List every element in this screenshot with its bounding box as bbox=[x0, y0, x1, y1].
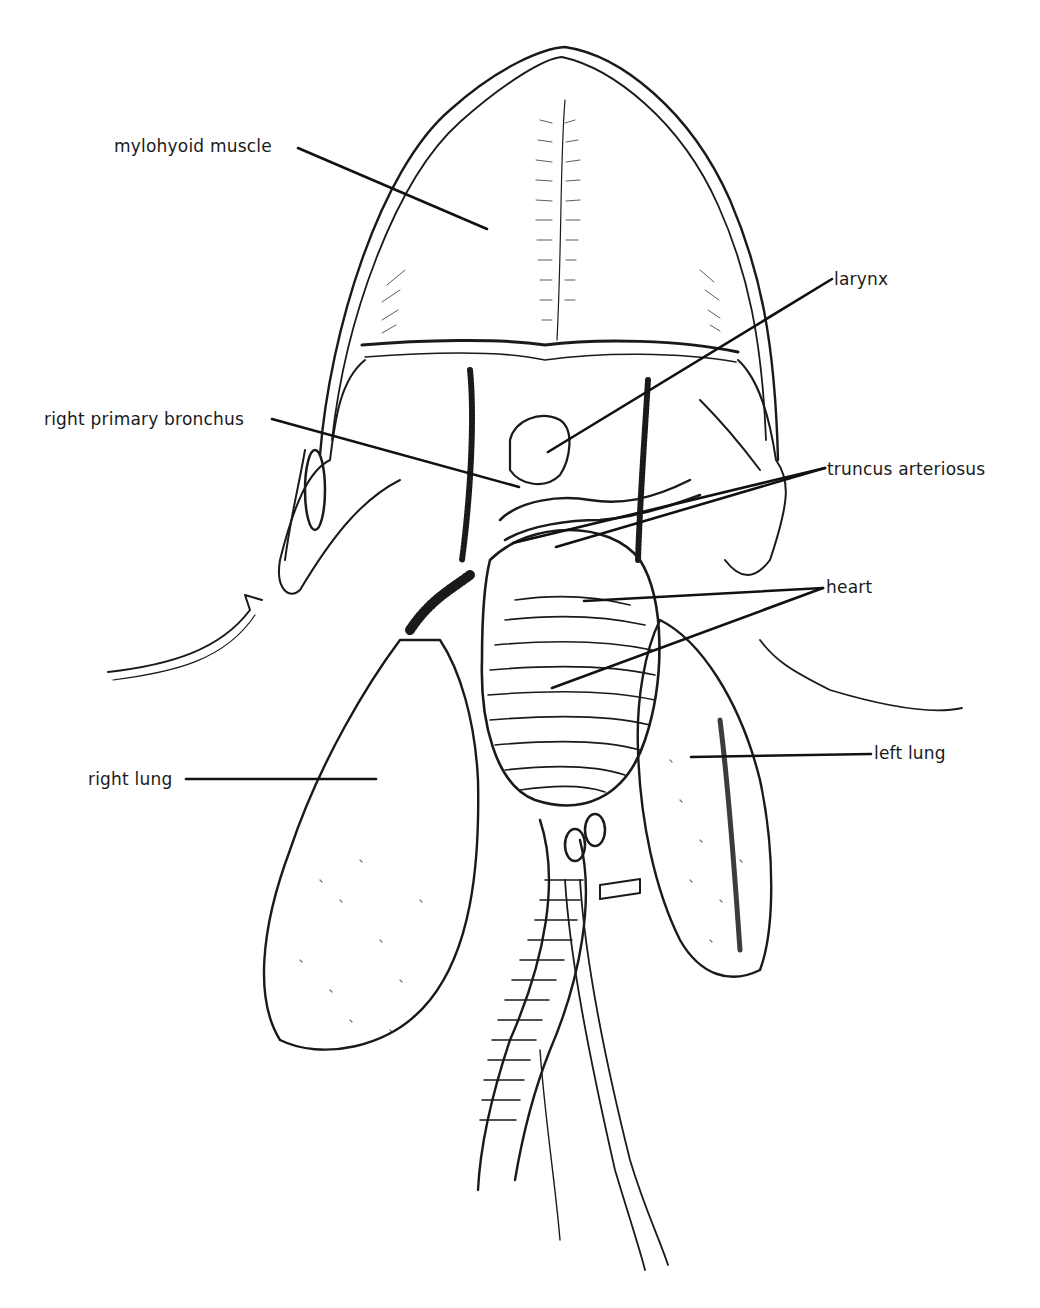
label-right-lung: right lung bbox=[88, 771, 172, 788]
leader-line-left-lung bbox=[691, 754, 871, 757]
anatomy-diagram: mylohyoid muscle larynx right primary br… bbox=[0, 0, 1040, 1308]
left-hyoid-structures bbox=[279, 360, 400, 594]
heart-shape bbox=[482, 530, 660, 805]
jaw-outline-outer bbox=[320, 47, 778, 460]
label-heart: heart bbox=[826, 579, 872, 596]
left-vessel bbox=[462, 370, 472, 560]
leader-lines bbox=[186, 148, 871, 779]
leader-line-bronchus bbox=[272, 419, 519, 487]
right-lung-shape bbox=[264, 640, 478, 1050]
truncus-shape bbox=[500, 480, 690, 520]
dorsal-aorta bbox=[565, 880, 645, 1270]
esophagus bbox=[478, 820, 549, 1190]
leader-line-heart-b bbox=[552, 588, 823, 688]
label-left-lung: left lung bbox=[874, 745, 946, 762]
leader-line-heart-a bbox=[584, 588, 823, 601]
label-truncus-arteriosus: truncus arteriosus bbox=[827, 461, 985, 478]
leader-line-larynx bbox=[548, 279, 832, 452]
jaw-outline-inner bbox=[332, 57, 766, 440]
label-mylohyoid-muscle: mylohyoid muscle bbox=[114, 138, 272, 155]
leader-line-mylohyoid bbox=[298, 148, 487, 229]
right-hyoid-structures bbox=[725, 360, 786, 575]
midline-raphe bbox=[557, 100, 565, 340]
larynx-shape bbox=[510, 416, 569, 484]
anatomical-illustration bbox=[0, 0, 1040, 1308]
label-larynx: larynx bbox=[834, 271, 888, 288]
label-right-primary-bronchus: right primary bronchus bbox=[44, 411, 244, 428]
right-vessel bbox=[638, 380, 648, 560]
right-skin-flap bbox=[760, 640, 962, 710]
mylohyoid-border bbox=[362, 340, 738, 352]
